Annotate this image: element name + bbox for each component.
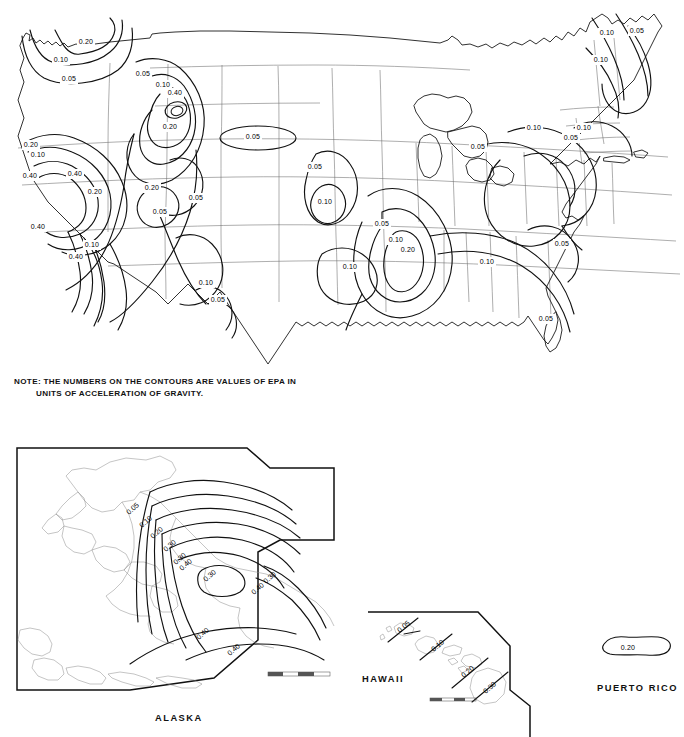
contour-label: 0.05 <box>555 240 569 247</box>
contour-label: 0.40 <box>249 581 265 597</box>
us-contour-labels: 0.200.100.050.050.100.400.200.200.100.40… <box>21 26 646 324</box>
contour-label: 0.20 <box>459 664 476 680</box>
contour-label: 0.10 <box>156 81 170 88</box>
contour-label: 0.40 <box>31 223 45 230</box>
contour-label: 0.05 <box>189 194 203 201</box>
contour-label: 0.05 <box>395 619 412 635</box>
contour-label: 0.05 <box>136 70 150 77</box>
map-svg: 0.200.100.050.050.100.400.200.200.100.40… <box>0 0 684 737</box>
alaska-scale-bar <box>268 672 330 676</box>
contour-label: 0.10 <box>318 198 332 205</box>
hawaii-region-label: HAWAII <box>362 674 404 684</box>
contour-label: 0.20 <box>401 246 415 253</box>
contour-label: 0.40 <box>69 253 83 260</box>
contour-label: 0.05 <box>630 27 644 34</box>
contour-label: 0.10 <box>85 241 99 248</box>
alaska-contour-labels: 0.050.100.200.300.300.400.300.300.400.40… <box>124 501 277 658</box>
contour-label: 0.10 <box>527 124 541 131</box>
contour-label: 0.20 <box>24 141 38 148</box>
alaska-inset <box>17 448 334 690</box>
contour-label: 0.05 <box>471 143 485 150</box>
contour-label: 0.05 <box>564 134 578 141</box>
contour-label: 0.40 <box>23 172 37 179</box>
contour-label: 0.10 <box>480 258 494 265</box>
contour-label: 0.05 <box>153 208 167 215</box>
contour-label: 0.10 <box>600 29 614 36</box>
contour-label: 0.05 <box>375 220 389 227</box>
puerto-rico-inset <box>603 637 671 656</box>
map-note: NOTE: THE NUMBERS ON THE CONTOURS ARE VA… <box>14 376 414 399</box>
contour-label: 0.10 <box>199 279 213 286</box>
alaska-region-label: ALASKA <box>155 713 203 723</box>
note-line-1: NOTE: THE NUMBERS ON THE CONTOURS ARE VA… <box>14 377 296 386</box>
note-line-2: UNITS OF ACCELERATION OF GRAVITY. <box>14 388 414 400</box>
contour-label: 0.40 <box>68 170 82 177</box>
contour-label: 0.10 <box>594 56 608 63</box>
contour-label: 0.05 <box>246 133 260 140</box>
contour-label: 0.10 <box>389 236 403 243</box>
hawaii-scale-bar <box>430 698 476 701</box>
contour-label: 0.10 <box>577 124 591 131</box>
contour-label: 0.10 <box>31 151 45 158</box>
contour-label: 0.05 <box>539 315 553 322</box>
contour-label: 0.20 <box>163 123 177 130</box>
contour-label: 0.30 <box>161 538 177 554</box>
hawaii-contour-labels: 0.050.100.200.30 <box>395 619 498 696</box>
contour-label: 0.05 <box>124 501 140 517</box>
contour-label: 0.10 <box>343 263 357 270</box>
contour-label: 0.40 <box>168 89 182 96</box>
contour-label: 0.20 <box>145 184 159 191</box>
contour-label: 0.05 <box>308 163 322 170</box>
contour-label: 0.10 <box>137 514 153 530</box>
seismic-hazard-map: 0.200.100.050.050.100.400.200.200.100.40… <box>0 0 684 737</box>
us-contours <box>22 14 651 338</box>
puerto-rico-region-label: PUERTO RICO <box>597 683 678 693</box>
contour-label: 0.20 <box>621 644 635 651</box>
contour-label: 0.10 <box>54 56 68 63</box>
contour-label: 0.20 <box>88 188 102 195</box>
contour-label: 0.05 <box>62 75 76 82</box>
us-state-boundaries <box>18 38 680 318</box>
puerto-rico-contour-labels: 0.20 <box>621 644 635 651</box>
contour-label: 0.30 <box>261 570 277 586</box>
contour-label: 0.20 <box>79 38 93 45</box>
contour-label: 0.05 <box>211 296 225 303</box>
contour-label: 0.30 <box>201 568 217 584</box>
